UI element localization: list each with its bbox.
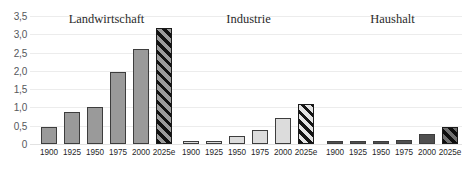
x-axis-tick-label: 2000 [416, 146, 437, 157]
x-axis-tick-label: 1950 [84, 146, 105, 157]
x-axis-tick-label: 1975 [107, 146, 128, 157]
plot-area: Landwirtschaft190019251950197520002025eI… [30, 0, 462, 174]
x-axis-tick-label: 2000 [130, 146, 151, 157]
x-axis-tick-text: 1975 [109, 146, 127, 157]
bar [206, 141, 222, 144]
y-axis-tick-label: 3,0 [14, 29, 27, 40]
x-axis-tick-text: 2025e [439, 146, 462, 157]
x-axis-tick-label: 2025e [293, 146, 319, 157]
bar [373, 141, 389, 144]
x-axis-tick-text: 1900 [182, 146, 200, 157]
x-axis-tick-text: 1925 [63, 146, 81, 157]
bar-forecast [156, 28, 172, 144]
bar [396, 140, 412, 144]
bar [41, 127, 57, 144]
x-axis-labels: 190019251950197520002025e [180, 146, 317, 162]
y-axis: 00,51,01,52,02,53,03,5 [0, 0, 30, 174]
x-axis-tick-label: 1925 [61, 146, 82, 157]
bar [133, 49, 149, 144]
x-axis-tick-label: 1900 [324, 146, 345, 157]
x-axis-tick-label: 1925 [347, 146, 368, 157]
x-axis-tick-label: 2000 [272, 146, 293, 157]
x-axis-tick-label: 1950 [226, 146, 247, 157]
x-axis-tick-text: 1900 [326, 146, 344, 157]
y-axis-tick-label: 2,5 [14, 47, 27, 58]
y-axis-tick-label: 3,5 [14, 11, 27, 22]
x-axis-tick-text: 1925 [349, 146, 367, 157]
x-axis-tick-text: 2025e [295, 146, 318, 157]
x-axis-tick-text: 2000 [132, 146, 150, 157]
bar-series [38, 0, 175, 144]
bar-series [324, 0, 461, 144]
x-axis-tick-label: 1950 [370, 146, 391, 157]
x-axis-tick-text: 1950 [228, 146, 246, 157]
x-axis-tick-label: 1975 [393, 146, 414, 157]
bar [64, 112, 80, 144]
y-axis-tick-label: 0 [22, 139, 27, 150]
x-axis-tick-label: 2025e [151, 146, 177, 157]
bar [419, 134, 435, 144]
x-axis-tick-text: 1900 [40, 146, 58, 157]
y-axis-tick-label: 0,5 [14, 120, 27, 131]
chart-panel: Landwirtschaft190019251950197520002025e [38, 0, 175, 174]
x-axis-tick-text: 1950 [86, 146, 104, 157]
y-axis-tick-label: 1,0 [14, 102, 27, 113]
x-axis-tick-text: 1975 [251, 146, 269, 157]
x-axis-tick-label: 1900 [180, 146, 201, 157]
chart-panel: Haushalt190019251950197520002025e [324, 0, 461, 174]
x-axis-tick-label: 1975 [249, 146, 270, 157]
bar-forecast [442, 127, 458, 144]
bar-forecast [298, 104, 314, 144]
bar [275, 118, 291, 144]
x-axis-tick-text: 1925 [205, 146, 223, 157]
bar [183, 141, 199, 144]
bar [252, 130, 268, 144]
x-axis-tick-text: 2000 [418, 146, 436, 157]
x-axis-tick-text: 2025e [153, 146, 176, 157]
x-axis-tick-text: 1975 [395, 146, 413, 157]
bar [110, 72, 126, 144]
chart-panel: Industrie190019251950197520002025e [180, 0, 317, 174]
bar [350, 141, 366, 144]
x-axis-tick-label: 1925 [203, 146, 224, 157]
x-axis-labels: 190019251950197520002025e [324, 146, 461, 162]
x-axis-tick-label: 1900 [38, 146, 59, 157]
bar-series [180, 0, 317, 144]
y-axis-tick-label: 2,0 [14, 65, 27, 76]
bar [87, 107, 103, 144]
x-axis-tick-text: 2000 [274, 146, 292, 157]
bar [229, 136, 245, 144]
x-axis-labels: 190019251950197520002025e [38, 146, 175, 162]
x-axis-tick-text: 1950 [372, 146, 390, 157]
y-axis-tick-label: 1,5 [14, 84, 27, 95]
x-axis-tick-label: 2025e [437, 146, 462, 157]
bar [327, 141, 343, 144]
grouped-bar-chart: 00,51,01,52,02,53,03,5 Landwirtschaft190… [0, 0, 462, 174]
